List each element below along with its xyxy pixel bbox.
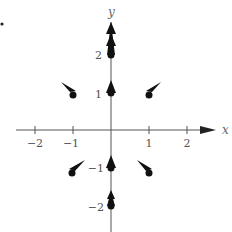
vector-1-1 xyxy=(146,82,162,99)
stray-dot xyxy=(0,22,3,25)
vector-field-diagram: −2 −1 1 2 x y 2 1 −1 −2 xyxy=(0,0,232,232)
x-tick-label: 2 xyxy=(184,137,191,150)
y-tick-label: −2 xyxy=(88,201,104,214)
vector-1-neg1 xyxy=(137,160,153,177)
vector-neg1-neg1 xyxy=(69,160,86,177)
y-tick-label: −1 xyxy=(88,162,104,175)
x-axis-arrow-icon xyxy=(200,126,216,134)
vector-0-neg2 xyxy=(107,190,115,210)
x-axis: −2 −1 1 2 x xyxy=(16,123,229,150)
vector-0-1 xyxy=(106,80,116,97)
vector-neg1-1 xyxy=(61,82,77,99)
x-tick-label: −1 xyxy=(63,137,79,150)
x-tick-label: 1 xyxy=(146,137,153,150)
vector-0-neg1 xyxy=(106,155,116,172)
y-axis-label: y xyxy=(107,5,115,19)
x-axis-label: x xyxy=(222,123,229,137)
y-tick-label: 1 xyxy=(95,88,102,101)
vector-0-2 xyxy=(106,22,116,59)
x-tick-label: −2 xyxy=(27,137,43,150)
y-tick-label: 2 xyxy=(95,49,102,62)
